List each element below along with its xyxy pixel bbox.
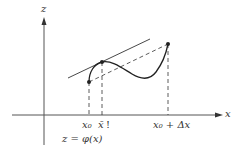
label-xbar: x̄ (98, 120, 104, 130)
point-x0-plus-dx (166, 42, 170, 46)
label-xbar-suffix: ! (106, 120, 110, 130)
z-axis-label: z (41, 4, 46, 14)
label-x0: x₀ (82, 120, 92, 130)
z-axis-arrow-icon (42, 17, 47, 25)
function-label: z = φ(x) (62, 134, 102, 144)
point-xbar (100, 60, 104, 64)
point-x0 (87, 80, 91, 84)
label-x0-plus-dx: x₀ + Δx (153, 120, 190, 130)
diagram-canvas (0, 0, 236, 153)
mean-value-diagram: z x x₀ x̄ ! x₀ + Δx z = φ(x) (0, 0, 236, 153)
x-axis-arrow-icon (215, 113, 223, 118)
x-axis-label: x (225, 109, 231, 119)
